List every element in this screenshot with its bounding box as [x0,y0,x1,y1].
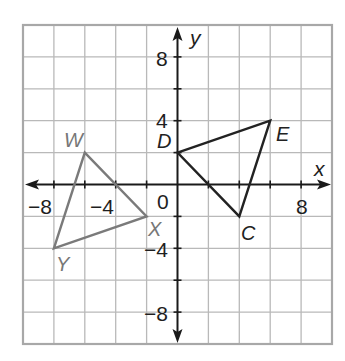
y-tick-label-4: 4 [156,109,168,132]
y-tick-label-8: 8 [156,47,168,70]
vertex-label-c: C [241,222,256,244]
x-axis-label: x [313,157,326,180]
triangle-dec [178,121,271,217]
x-tick-label-neg4: −4 [90,195,114,218]
vertex-label-e: E [276,123,290,145]
axes [25,27,331,343]
x-tick-label-8: 8 [296,195,308,218]
x-tick-label-neg8: −8 [28,195,52,218]
y-axis-label: y [188,26,202,49]
y-tick-label-neg8: −8 [144,302,168,325]
coordinate-plane: x y 0 −8 −4 8 8 4 −4 −8 D E C W X Y [0,0,345,361]
coordinate-plane-figure: x y 0 −8 −4 8 8 4 −4 −8 D E C W X Y [0,0,345,361]
vertex-label-x: X [147,218,162,240]
vertex-label-y: Y [56,253,71,275]
origin-label: 0 [157,190,169,213]
y-tick-label-neg4: −4 [144,238,168,261]
vertex-label-w: W [64,129,85,151]
vertex-label-d: D [157,130,171,152]
